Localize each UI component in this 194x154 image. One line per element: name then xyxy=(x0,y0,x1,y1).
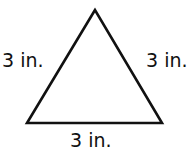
triangle xyxy=(27,10,162,123)
right-side-label: 3 in. xyxy=(146,51,188,70)
diagram-canvas: 3 in. 3 in. 3 in. xyxy=(0,0,194,154)
bottom-side-label: 3 in. xyxy=(70,131,112,150)
left-side-label: 3 in. xyxy=(2,51,44,70)
